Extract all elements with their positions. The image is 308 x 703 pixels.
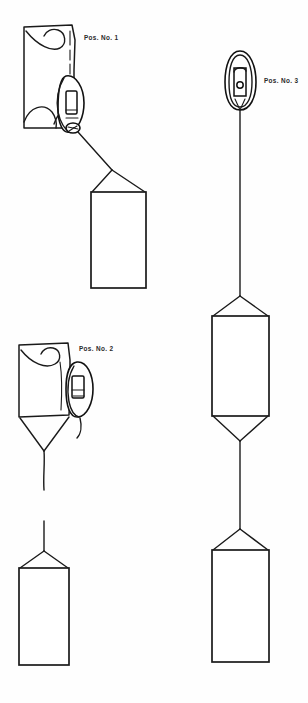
pos3-upper-bridle-left [213, 296, 240, 316]
pos2-bridle-left [20, 418, 44, 451]
position-3-group [212, 51, 269, 662]
pos2-load-box [19, 568, 69, 665]
position-1-label: Pos. No. 1 [84, 35, 118, 41]
pos3-lower-bridle-left [213, 529, 240, 550]
pos3-mid-bridle-left [213, 416, 240, 441]
pos3-bag-grommet-icon [237, 82, 243, 88]
pos1-load-box [91, 192, 146, 288]
position-2-label: Pos. No. 2 [79, 346, 113, 352]
figure-canvas [0, 0, 308, 703]
pos1-bridle-right [112, 170, 145, 192]
pos2-box-bridle-left [20, 551, 44, 568]
pos3-upper-bridle-right [240, 296, 268, 316]
position-1-group [24, 25, 146, 288]
pos1-suspension-line [78, 132, 112, 170]
pos2-riser-upper [44, 451, 45, 490]
position-2-group [19, 343, 93, 665]
pos2-box-bridle-right [44, 551, 68, 568]
pos3-load-box-lower [212, 550, 269, 662]
position-3-label: Pos. No. 3 [264, 78, 298, 84]
diagram-root: Pos. No. 1 Pos. No. 2 Pos. No. 3 [0, 0, 308, 703]
pos2-bridle-right [44, 417, 69, 451]
pos3-load-box-upper [212, 316, 269, 416]
pos2-bag-tail-line [77, 418, 81, 438]
pos1-bridle-left [92, 170, 112, 192]
pos2-canopy-outline [19, 343, 70, 417]
pos3-lower-bridle-right [240, 529, 268, 550]
pos2-bag-inner-pack [72, 376, 84, 398]
pos3-mid-bridle-right [240, 416, 268, 441]
